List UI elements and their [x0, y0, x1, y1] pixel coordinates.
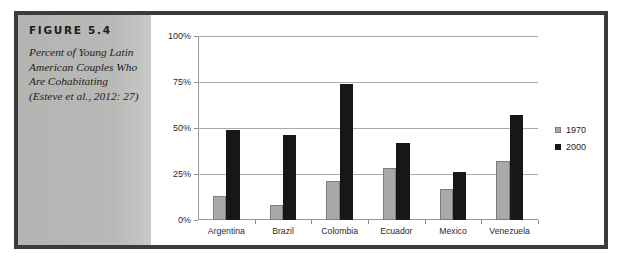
- bar-brazil-1970: [270, 205, 283, 220]
- x-axis-tick: [311, 220, 312, 224]
- x-axis-label-mexico: Mexico: [439, 226, 467, 236]
- legend-swatch-icon-1970: [555, 127, 561, 133]
- bar-colombia-2000: [340, 84, 353, 220]
- bar-mexico-2000: [453, 172, 466, 220]
- x-axis-label-colombia: Colombia: [321, 226, 358, 236]
- y-axis-tick-label: 100%: [168, 31, 191, 41]
- y-axis-tick: [194, 220, 198, 221]
- y-axis-tick: [194, 82, 198, 83]
- x-axis-tick: [538, 220, 539, 224]
- figure-frame: FIGURE 5.4 Percent of Young Latin Americ…: [14, 11, 608, 249]
- y-axis-tick-label: 75%: [173, 77, 191, 87]
- bar-venezuela-1970: [496, 161, 509, 220]
- bar-argentina-2000: [226, 130, 239, 220]
- gridline: [198, 174, 538, 175]
- y-axis-tick: [194, 174, 198, 175]
- y-axis-tick-label: 50%: [173, 123, 191, 133]
- x-axis-tick: [255, 220, 256, 224]
- gridline: [198, 128, 538, 129]
- figure-caption-text: Percent of Young Latin American Couples …: [29, 45, 141, 103]
- legend-swatch-icon-2000: [555, 144, 561, 150]
- y-axis-tick: [194, 128, 198, 129]
- gridline: [198, 82, 538, 83]
- legend-item-1970: 1970: [555, 121, 586, 138]
- bar-brazil-2000: [283, 135, 296, 220]
- bar-ecuador-1970: [383, 168, 396, 220]
- y-axis-tick-label: 25%: [173, 169, 191, 179]
- figure-number-label: FIGURE 5.4: [29, 24, 141, 36]
- bar-mexico-1970: [440, 189, 453, 220]
- bar-colombia-1970: [326, 181, 339, 220]
- chart-legend: 19702000: [555, 121, 586, 155]
- legend-label-1970: 1970: [566, 125, 586, 135]
- chart-area: 0%25%50%75%100% ArgentinaBrazilColombiaE…: [151, 15, 604, 245]
- x-axis-tick: [368, 220, 369, 224]
- legend-label-2000: 2000: [566, 142, 586, 152]
- bar-ecuador-2000: [396, 143, 409, 220]
- figure-caption-panel: FIGURE 5.4 Percent of Young Latin Americ…: [18, 15, 151, 245]
- plot-area: 0%25%50%75%100% ArgentinaBrazilColombiaE…: [198, 36, 538, 220]
- x-axis-label-brazil: Brazil: [272, 226, 294, 236]
- x-axis-tick: [481, 220, 482, 224]
- bar-venezuela-2000: [510, 115, 523, 220]
- x-axis-label-ecuador: Ecuador: [380, 226, 412, 236]
- y-axis-tick-label: 0%: [178, 215, 191, 225]
- y-axis-tick: [194, 36, 198, 37]
- legend-item-2000: 2000: [555, 138, 586, 155]
- bar-argentina-1970: [213, 196, 226, 220]
- x-axis-label-argentina: Argentina: [208, 226, 245, 236]
- gridline: [198, 36, 538, 37]
- x-axis-label-venezuela: Venezuela: [489, 226, 530, 236]
- x-axis-tick: [425, 220, 426, 224]
